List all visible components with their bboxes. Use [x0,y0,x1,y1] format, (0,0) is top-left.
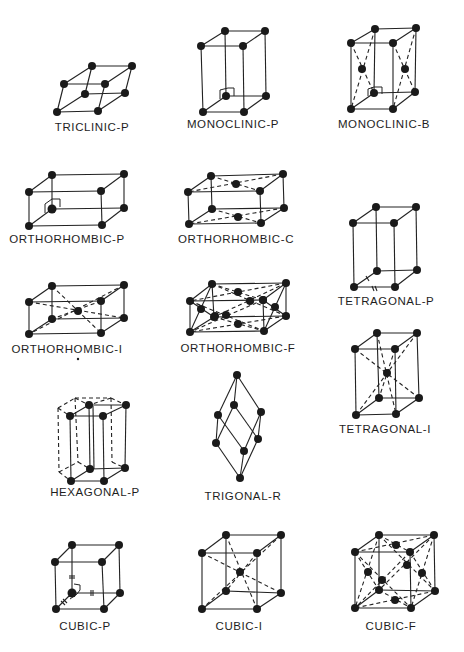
cubic-f-lattice [351,531,439,612]
label-triclinic-p: TRICLINIC-P [55,121,129,133]
tetragonal-i-lattice [351,329,423,419]
orthorhombic-c-lattice [184,170,288,228]
label-trigonal-r: TRIGONAL-R [205,490,282,502]
orthorhombic-f-lattice [186,279,290,336]
label-hexagonal-p: HEXAGONAL-P [50,486,140,498]
monoclinic-b-lattice [347,24,420,113]
label-monoclinic-b: MONOCLINIC-B [338,118,430,130]
label-tetragonal-i: TETRAGONAL-I [339,423,431,435]
label-orthorhombic-i: ORTHORHOMBIC-I [11,343,122,355]
cubic-i-lattice [198,531,285,613]
trigonal-r-lattice [212,371,265,482]
cubic-p-lattice [51,541,124,613]
hexagonal-p-lattice [58,398,130,485]
label-orthorhombic-p: ORTHORHOMBIC-P [9,233,125,245]
label-orthorhombic-f: ORTHORHOMBIC-F [181,342,296,354]
label-tetragonal-p: TETRAGONAL-P [338,295,435,307]
label-cubic-i: CUBIC-I [215,620,262,632]
label-cubic-f: CUBIC-F [366,620,417,632]
triclinic-p-lattice [53,62,136,116]
tetragonal-p-lattice [349,203,421,291]
orthorhombic-p-lattice [25,170,128,230]
label-monoclinic-p: MONOCLINIC-P [187,118,279,130]
monoclinic-p-lattice [197,27,270,116]
bravais-lattices-figure: TRICLINIC-P MONOCLINIC-P MONOCLINIC-B OR… [0,0,464,652]
label-cubic-p: CUBIC-P [59,620,110,632]
label-orthorhombic-c: ORTHORHOMBIC-C [178,233,294,245]
